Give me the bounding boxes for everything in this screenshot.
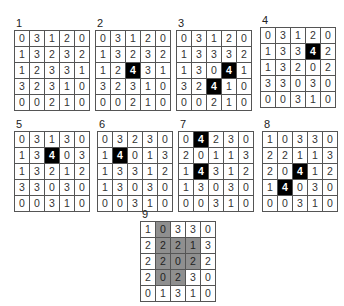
grid-cell: 0 [75, 196, 90, 212]
grid-cell: 0 [171, 254, 186, 270]
grid-cell: 0 [194, 196, 209, 212]
grid-cell: 1 [60, 95, 75, 111]
grid-cell: 3 [291, 92, 306, 108]
grid-cell: 1 [98, 180, 113, 196]
grid-cell: 2 [171, 270, 186, 286]
grid-cell: 2 [321, 44, 336, 60]
grid-cell: 4 [194, 164, 209, 180]
grid-cell: 3 [75, 148, 90, 164]
grid-cell: 0 [177, 31, 192, 47]
grid-cell: 2 [222, 31, 237, 47]
grid-cell: 2 [171, 238, 186, 254]
grid-cell: 3 [239, 148, 254, 164]
grid-cell: 1 [308, 164, 323, 180]
grid-cell: 3 [128, 164, 143, 180]
grid-cell: 2 [179, 148, 194, 164]
grid-cell: 2 [263, 164, 278, 180]
grid-cell: 4 [306, 44, 321, 60]
grid-cell: 3 [30, 132, 45, 148]
grid-cell: 1 [141, 79, 156, 95]
panel-label: 8 [264, 118, 270, 130]
grid-cell: 0 [111, 95, 126, 111]
grid-cell: 3 [192, 63, 207, 79]
grid-cell: 2 [156, 47, 171, 63]
grid-cell: 3 [306, 76, 321, 92]
grid-cell: 0 [201, 286, 216, 302]
grid-cell: 1 [263, 180, 278, 196]
grid-cell: 2 [278, 148, 293, 164]
grid-cell: 1 [222, 79, 237, 95]
grid-cell: 2 [141, 270, 156, 286]
grid-cell: 0 [128, 180, 143, 196]
grid-cell: 1 [186, 286, 201, 302]
grid-cell: 3 [194, 180, 209, 196]
grid-cell: 2 [263, 148, 278, 164]
grid-cell: 2 [201, 254, 216, 270]
grid-cell: 0 [75, 79, 90, 95]
grid-cell: 2 [306, 28, 321, 44]
grid-cell: 0 [128, 148, 143, 164]
grid-panel-7: 0423020113143121303000310 [178, 131, 254, 212]
grid-cell: 0 [237, 31, 252, 47]
grid-cell: 1 [306, 92, 321, 108]
grid-cell: 3 [276, 76, 291, 92]
grid-cell: 2 [75, 164, 90, 180]
grid-panel-3: 0312013332130413241000210 [176, 30, 252, 111]
panel-label: 2 [97, 17, 103, 29]
grid-cell: 3 [128, 196, 143, 212]
grid-cell: 1 [96, 63, 111, 79]
grid-cell: 2 [75, 47, 90, 63]
grid-cell: 4 [45, 148, 60, 164]
grid-cell: 3 [45, 196, 60, 212]
grid-cell: 1 [291, 28, 306, 44]
grid-cell: 1 [15, 63, 30, 79]
grid-cell: 1 [156, 286, 171, 302]
grid-cell: 1 [143, 148, 158, 164]
grid-cell: 0 [323, 196, 338, 212]
grid-cell: 3 [207, 47, 222, 63]
grid-cell: 0 [45, 180, 60, 196]
grid-cell: 2 [156, 254, 171, 270]
grid-cell: 3 [171, 286, 186, 302]
grid-cell: 1 [75, 63, 90, 79]
grid-cell: 2 [239, 164, 254, 180]
grid-cell: 0 [177, 95, 192, 111]
grid-cell: 1 [60, 79, 75, 95]
grid-cell: 3 [186, 222, 201, 238]
grid-cell: 0 [156, 95, 171, 111]
grid-cell: 3 [291, 44, 306, 60]
grid-cell: 3 [141, 47, 156, 63]
grid-cell: 2 [30, 79, 45, 95]
grid-cell: 0 [239, 196, 254, 212]
grid-cell: 0 [209, 180, 224, 196]
grid-cell: 0 [98, 196, 113, 212]
grid-cell: 0 [201, 270, 216, 286]
grid-cell: 1 [141, 95, 156, 111]
grid-cell: 1 [224, 164, 239, 180]
grid-panel-6: 0323014013133121303000310 [97, 131, 173, 212]
grid-cell: 1 [237, 63, 252, 79]
grid-cell: 3 [60, 63, 75, 79]
grid-cell: 0 [239, 132, 254, 148]
grid-cell: 0 [323, 132, 338, 148]
panel-label: 3 [178, 17, 184, 29]
grid-cell: 3 [111, 47, 126, 63]
grid-cell: 0 [293, 180, 308, 196]
grid-cell: 3 [113, 180, 128, 196]
grid-cell: 0 [278, 164, 293, 180]
grid-cell: 3 [209, 164, 224, 180]
grid-cell: 0 [201, 222, 216, 238]
grid-cell: 0 [158, 132, 173, 148]
grid-cell: 0 [323, 180, 338, 196]
grid-cell: 3 [30, 148, 45, 164]
grid-cell: 0 [156, 31, 171, 47]
grid-cell: 3 [222, 47, 237, 63]
grid-cell: 1 [263, 132, 278, 148]
grid-cell: 0 [237, 79, 252, 95]
grid-cell: 3 [201, 238, 216, 254]
grid-cell: 0 [237, 95, 252, 111]
grid-cell: 0 [75, 132, 90, 148]
grid-cell: 2 [207, 95, 222, 111]
grid-cell: 3 [323, 148, 338, 164]
grid-cell: 0 [291, 76, 306, 92]
